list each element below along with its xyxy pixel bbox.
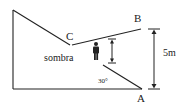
line-c-b [72,29,141,45]
label-point-a: A [137,92,145,104]
label-point-b: B [134,12,141,24]
line-to-a-30deg [103,65,142,89]
label-height: 5m [163,47,176,58]
height-dimension-arrow [148,29,160,89]
roof-diagonal [13,10,70,45]
shadow-geometry-diagram: B C A sombra 30° 5m [0,0,183,104]
label-shadow: sombra [44,52,74,63]
outline [13,10,142,89]
label-angle: 30° [98,77,108,85]
double-arrow-vertical-icon [108,39,116,63]
label-point-c: C [66,30,73,42]
person-silhouette-icon [93,42,99,60]
